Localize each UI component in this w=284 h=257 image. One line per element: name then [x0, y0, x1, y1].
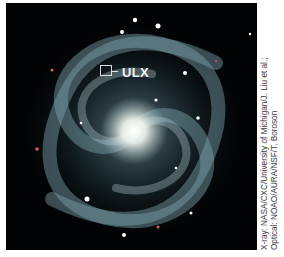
credit-line-optical: Optical: NOAO/AURA/NSF/T. Boroson: [270, 0, 280, 250]
ulx-marker-line: [112, 71, 118, 72]
spiral-galaxy-graphic: [6, 3, 257, 250]
galaxy-image: ULX: [6, 3, 257, 250]
ulx-label: ULX: [122, 65, 149, 80]
credit-line-xray: X-ray: NASA/CXC/University of Michigan/J…: [260, 0, 270, 250]
ulx-marker-box: [100, 65, 112, 76]
image-credit: X-ray: NASA/CXC/University of Michigan/J…: [260, 0, 280, 250]
